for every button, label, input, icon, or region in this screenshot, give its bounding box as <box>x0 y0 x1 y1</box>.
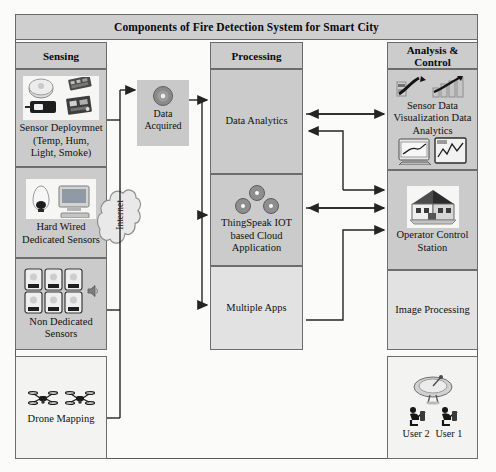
column-header-sensing: Sensing <box>15 42 107 69</box>
sensing-block-drone-mapping-label: Drone Mapping <box>25 413 98 426</box>
column-header-processing: Processing <box>210 42 303 69</box>
speaker-icon <box>87 284 99 298</box>
drone-icon <box>28 389 95 407</box>
sensing-block-hard-wired-sensors-label: Hard Wired Dedicated Sensors <box>16 221 106 246</box>
internet-cloud-label: Internet <box>115 200 125 230</box>
column-header-analysis-control: Analysis & Control <box>387 42 478 69</box>
data-acquired-node[interactable]: Data Acquired <box>137 80 189 146</box>
column-header-analysis-label: Analysis & Control <box>388 44 477 68</box>
sensing-block-non-dedicated-sensors-label: Non Dedicated Sensors <box>16 316 106 341</box>
internet-cloud[interactable]: Internet <box>97 176 143 254</box>
sensing-block-sensor-deployment-label: Sensor Deploymnet (Temp, Hum, Light, Smo… <box>16 122 106 160</box>
analysis-block-image-processing-label: Image Processing <box>392 304 472 317</box>
wired-sensor-computer-icon <box>26 179 96 219</box>
processing-block-data-analytics[interactable]: Data Analytics <box>210 69 303 174</box>
user-2-label: User 2 <box>403 428 430 441</box>
user-1-label: User 1 <box>436 428 463 441</box>
diagram-title: Components of Fire Detection System for … <box>15 14 478 40</box>
sensing-block-sensor-deployment[interactable]: Sensor Deploymnet (Temp, Hum, Light, Smo… <box>15 69 107 167</box>
house-icon <box>407 186 459 228</box>
seated-users-icon <box>406 406 460 428</box>
disc-icon <box>152 85 174 107</box>
processing-block-multiple-apps[interactable]: Multiple Apps <box>210 266 303 350</box>
satellite-dish-icon <box>410 375 456 405</box>
analysis-block-sensor-data-visualization[interactable]: Sensor Data Visualization Data Analytics <box>387 69 478 170</box>
analysis-block-operator-control-station[interactable]: Operator Control Station <box>387 170 478 270</box>
sensing-block-non-dedicated-sensors[interactable]: Non Dedicated Sensors <box>15 258 107 350</box>
analysis-block-users[interactable]: User 2 User 1 <box>387 356 478 459</box>
processing-block-thingspeak[interactable]: ThingSpeak IOT based Cloud Application <box>210 174 303 266</box>
thingspeak-dots-icon <box>231 185 283 215</box>
sensing-block-drone-mapping[interactable]: Drone Mapping <box>15 356 107 459</box>
charts-icon <box>395 74 471 100</box>
sensor-modules-icon <box>23 76 99 120</box>
processing-block-data-analytics-label: Data Analytics <box>222 115 290 128</box>
data-acquired-label-line2: Acquired <box>144 120 181 132</box>
data-acquired-label-line1: Data <box>154 108 173 120</box>
sensing-block-hard-wired-sensors[interactable]: Hard Wired Dedicated Sensors <box>15 167 107 258</box>
analysis-block-operator-control-station-label: Operator Control Station <box>388 229 477 254</box>
monitor-charts-icon <box>398 137 468 165</box>
processing-block-thingspeak-label: ThingSpeak IOT based Cloud Application <box>211 217 302 255</box>
analysis-block-image-processing[interactable]: Image Processing <box>387 270 478 350</box>
analysis-block-sensor-data-visualization-label: Sensor Data Visualization Data Analytics <box>388 100 477 138</box>
processing-block-multiple-apps-label: Multiple Apps <box>223 302 289 315</box>
smartphones-grid-icon <box>24 268 99 314</box>
fire-detection-system-diagram: Components of Fire Detection System for … <box>0 0 496 472</box>
